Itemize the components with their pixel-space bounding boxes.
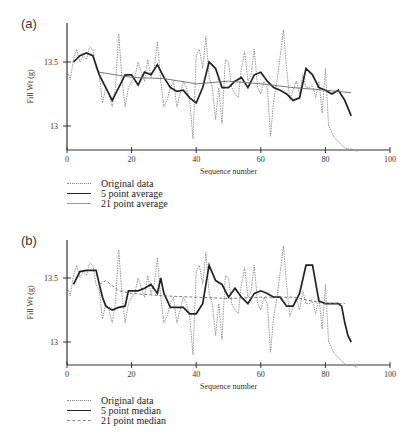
legend-swatch-dashed <box>67 420 91 421</box>
y-tick-label: 13.5 <box>44 58 58 67</box>
legend-a: Original data 5 point average 21 point a… <box>67 178 168 208</box>
x-tick-label: 80 <box>321 370 329 379</box>
y-tick-label: 13 <box>50 338 58 347</box>
x-tick-label: 100 <box>384 155 396 164</box>
y-tick-label: 13.5 <box>44 274 58 283</box>
legend-item-original: Original data <box>67 178 168 188</box>
series-line <box>67 246 358 368</box>
legend-item-21pt: 21 point average <box>67 198 168 208</box>
y-axis-title: Fill Wt (g) <box>26 285 35 319</box>
x-tick-label: 20 <box>128 155 136 164</box>
legend-swatch-dotted <box>67 183 91 184</box>
legend-label: 21 point average <box>101 198 168 209</box>
x-tick-label: 100 <box>384 370 396 379</box>
legend-item-original: Original data <box>67 395 166 405</box>
chart-b: 0204060801001313.5Sequence numberFill Wt… <box>0 222 418 392</box>
legend-swatch-bold <box>67 410 91 411</box>
x-tick-label: 80 <box>321 155 329 164</box>
chart-a: 0204060801001313.5Sequence numberFill Wt… <box>0 0 418 175</box>
x-axis-title: Sequence number <box>200 167 257 175</box>
legend-item-5pt: 5 point median <box>67 405 166 415</box>
legend-swatch-dotted <box>67 400 91 401</box>
x-tick-label: 0 <box>65 155 69 164</box>
legend-swatch-bold <box>67 193 91 194</box>
x-tick-label: 40 <box>192 155 200 164</box>
x-axis-title: Sequence number <box>200 382 257 391</box>
legend-item-21pt: 21 point median <box>67 415 166 425</box>
legend-swatch-thin <box>67 203 91 204</box>
x-tick-label: 0 <box>65 370 69 379</box>
y-axis-title: Fill Wt (g) <box>26 69 35 103</box>
series-line <box>67 30 358 152</box>
x-tick-label: 60 <box>257 370 265 379</box>
y-tick-label: 13 <box>50 122 58 131</box>
legend-label: 21 point median <box>101 415 166 426</box>
legend-b: Original data 5 point median 21 point me… <box>67 395 166 425</box>
legend-item-5pt: 5 point average <box>67 188 168 198</box>
x-tick-label: 20 <box>128 370 136 379</box>
x-tick-label: 60 <box>257 155 265 164</box>
x-tick-label: 40 <box>192 370 200 379</box>
